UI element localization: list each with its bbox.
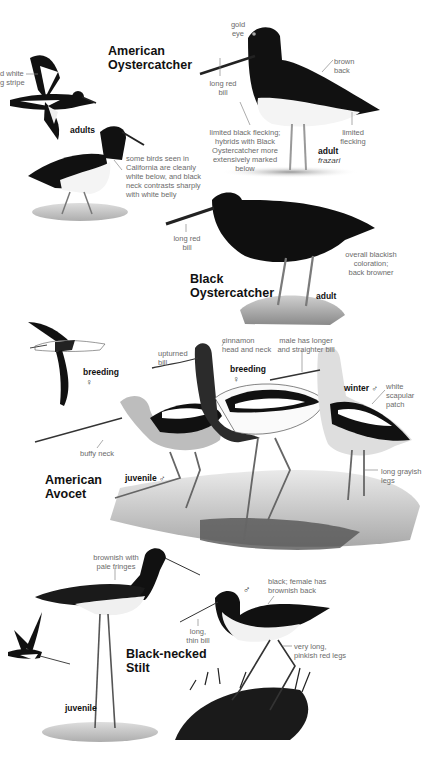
species-name-line1: Black-necked bbox=[126, 647, 207, 661]
label-winter-male: winter ♂ bbox=[344, 383, 378, 393]
annotation-line: overall blackish bbox=[338, 250, 404, 259]
species-name-line1: American bbox=[45, 473, 102, 487]
annotation-california-birds: some birds seen in California are cleanl… bbox=[126, 154, 201, 199]
species-title-black-oystercatcher: Black Oystercatcher bbox=[190, 272, 274, 300]
annotation-brown-back: brown back bbox=[334, 57, 354, 75]
species-name-line1: Black bbox=[190, 272, 274, 286]
species-title-black-necked-stilt: Black-necked Stilt bbox=[126, 647, 207, 675]
annotation-pinkish-red-legs: very long, pinkish red legs bbox=[294, 642, 346, 660]
female-symbol-icon: ♀ bbox=[83, 377, 119, 387]
annotation-line: thin bill bbox=[183, 636, 213, 645]
annotation-line: eye bbox=[225, 29, 251, 38]
species-name-line2: Oystercatcher bbox=[190, 286, 274, 300]
annotation-black-back: black; female has brownish back bbox=[268, 577, 326, 595]
annotation-line: upturned bbox=[158, 349, 188, 358]
annotation-line: hybrids with Black bbox=[204, 137, 286, 146]
black-necked-stilt-flight-illustration bbox=[8, 612, 70, 664]
annotation-line: legs bbox=[381, 476, 421, 485]
annotation-line: bill bbox=[158, 358, 188, 367]
annotation-line: white bbox=[386, 382, 414, 391]
annotation-long-thin-bill: long, thin bill bbox=[183, 627, 213, 645]
species-title-american-oystercatcher: American Oystercatcher bbox=[108, 44, 192, 72]
annotation-line: California are cleanly bbox=[126, 163, 201, 172]
annotation-line: d white bbox=[0, 69, 25, 78]
male-symbol-icon: ♂ bbox=[243, 585, 251, 595]
annotation-line: coloration; bbox=[338, 259, 404, 268]
annotation-line: g stripe bbox=[0, 78, 25, 87]
annotation-line: neck contrasts sharply bbox=[126, 181, 201, 190]
label-adults: adults bbox=[70, 125, 95, 135]
annotation-limited-black-flecking: limited black flecking; hybrids with Bla… bbox=[204, 128, 286, 173]
annotation-line: brownish with bbox=[90, 553, 142, 562]
label-juvenile-male-avocet: juvenile ♂ bbox=[125, 473, 165, 483]
label-adult: adult bbox=[318, 146, 340, 156]
annotation-male-bill: male has longer and straighter bill bbox=[276, 336, 336, 354]
annotation-cinnamon-head: cinnamon head and neck bbox=[222, 336, 271, 354]
annotation-line: very long, bbox=[294, 642, 346, 651]
species-title-american-avocet: American Avocet bbox=[45, 473, 102, 501]
annotation-line: brown bbox=[334, 57, 354, 66]
species-name-line2: Stilt bbox=[126, 661, 207, 675]
species-name-line1: American bbox=[108, 44, 192, 58]
annotation-line: bill bbox=[206, 88, 240, 97]
annotation-long-grayish-legs: long grayish legs bbox=[381, 467, 421, 485]
annotation-line: pale fringes bbox=[90, 562, 142, 571]
species-name-line2: Oystercatcher bbox=[108, 58, 192, 72]
annotation-line: long, bbox=[183, 627, 213, 636]
annotation-line: long grayish bbox=[381, 467, 421, 476]
label-breeding: breeding bbox=[83, 367, 119, 377]
annotation-line: male has longer bbox=[276, 336, 336, 345]
annotation-line: extensively marked below bbox=[204, 155, 286, 173]
annotation-line: patch bbox=[386, 400, 414, 409]
annotation-line: long red bbox=[170, 234, 204, 243]
annotation-white-scapular: white scapular patch bbox=[386, 382, 414, 409]
annotation-line: head and neck bbox=[222, 345, 271, 354]
label-breeding: breeding bbox=[230, 364, 266, 374]
annotation-line: flecking bbox=[338, 137, 368, 146]
annotation-line: black; female has bbox=[268, 577, 326, 586]
annotation-black-oc-bill: long red bill bbox=[170, 234, 204, 252]
annotation-upturned-bill: upturned bill bbox=[158, 349, 188, 367]
annotation-long-red-bill: long red bill bbox=[206, 79, 240, 97]
annotation-line: pinkish red legs bbox=[294, 651, 346, 660]
annotation-line: limited bbox=[338, 128, 368, 137]
annotation-buffy-neck: buffy neck bbox=[80, 449, 114, 458]
annotation-line: and straighter bill bbox=[276, 345, 336, 354]
label-subspecies: frazari bbox=[318, 156, 340, 166]
annotation-line: back bbox=[334, 66, 354, 75]
annotation-line: brownish back bbox=[268, 586, 326, 595]
annotation-limited-flecking: limited flecking bbox=[338, 128, 368, 146]
annotation-line: some birds seen in bbox=[126, 154, 201, 163]
annotation-line: scapular bbox=[386, 391, 414, 400]
american-avocet-flight-illustration bbox=[28, 322, 105, 406]
species-name-line2: Avocet bbox=[45, 487, 102, 501]
annotation-brownish-fringes: brownish with pale fringes bbox=[90, 553, 142, 571]
annotation-line: bill bbox=[170, 243, 204, 252]
annotation-line: limited black flecking; bbox=[204, 128, 286, 137]
field-guide-illustrations bbox=[0, 0, 446, 767]
label-juvenile-stilt: juvenile bbox=[65, 703, 97, 713]
annotation-line: cinnamon bbox=[222, 336, 271, 345]
female-symbol-icon: ♀ bbox=[230, 374, 266, 384]
annotation-line: back browner bbox=[338, 268, 404, 277]
label-breeding-flight: breeding ♀ bbox=[83, 367, 119, 387]
label-adult-black-oc: adult bbox=[316, 291, 336, 301]
annotation-line: gold bbox=[225, 20, 251, 29]
annotation-line: long red bbox=[206, 79, 240, 88]
label-adult-frazari: adult frazari bbox=[318, 146, 340, 166]
annotation-line: Oystercatcher more bbox=[204, 146, 286, 155]
black-necked-stilt-juvenile-illustration bbox=[35, 548, 200, 742]
annotation-line: with white belly bbox=[126, 190, 201, 199]
annotation-gold-eye: gold eye bbox=[225, 20, 251, 38]
annotation-line: white below, and black bbox=[126, 172, 201, 181]
label-breeding-female: breeding ♀ bbox=[230, 364, 266, 384]
annotation-wing-stripe: d white g stripe bbox=[0, 69, 25, 87]
annotation-overall-blackish: overall blackish coloration; back browne… bbox=[338, 250, 404, 277]
